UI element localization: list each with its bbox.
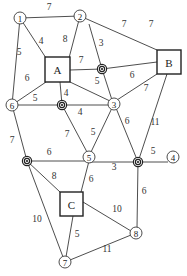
edge-weight-label: 5 [17, 47, 22, 57]
edge-weight-label: 8 [63, 34, 68, 44]
edge-J4-7 [27, 161, 63, 257]
node-1: 1 [14, 12, 26, 24]
edge-weight-label: 6 [130, 70, 135, 80]
edge-weight-label: 7 [79, 55, 84, 65]
node-label: 1 [18, 14, 23, 24]
edge-C-8 [83, 202, 131, 231]
edge-weight-label: 5 [95, 76, 100, 86]
edge-weight-label: 7 [122, 19, 127, 29]
edge-weight-label: 4 [78, 107, 83, 117]
edge-3-B [117, 74, 157, 100]
edge-weight-label: 10 [32, 214, 42, 224]
node-label: 7 [63, 258, 68, 268]
box-label: C [68, 199, 75, 211]
edge-weight-label: 6 [47, 147, 52, 157]
node-label: 4 [171, 153, 176, 163]
box-node-A: A [45, 57, 70, 82]
edge-weight-label: 11 [150, 117, 159, 127]
junction-node-J1 [97, 64, 106, 73]
node-4: 4 [167, 151, 179, 163]
edge-weight-label: 7 [144, 83, 149, 93]
box-node-C: C [60, 192, 83, 216]
edge-C-7 [66, 216, 73, 257]
edge-weight-label: 11 [102, 244, 111, 254]
edge-weight-label: 5 [33, 93, 38, 103]
node-label: 2 [78, 12, 83, 22]
node-7: 7 [59, 256, 71, 268]
node-label: 8 [134, 229, 139, 239]
edge-weight-label: 5 [151, 146, 156, 156]
edge-weight-label: 7 [47, 2, 52, 12]
edge-2-A [69, 16, 80, 58]
edge-A-3 [70, 82, 110, 101]
edge-weight-label: 3 [99, 38, 104, 48]
box-label: A [54, 64, 62, 76]
node-label: 5 [87, 153, 92, 163]
node-3: 3 [108, 98, 120, 110]
edge-weight-label: 4 [39, 36, 44, 46]
node-label: 3 [112, 100, 117, 110]
edge-weight-label: 4 [64, 88, 69, 98]
node-8: 8 [130, 227, 142, 239]
edge-weight-label: 7 [65, 129, 70, 139]
edge-1-2 [20, 16, 80, 18]
edge-6-J4 [12, 105, 27, 161]
edge-weight-label: 6 [25, 73, 30, 83]
box-node-B: B [157, 50, 181, 74]
box-label: B [165, 57, 172, 69]
edge-J3-8 [137, 162, 138, 228]
junction-node-J4 [22, 156, 31, 165]
network-diagram: 7458377657454756115763866101051167 12345… [0, 0, 187, 276]
edge-weight-label: 6 [142, 186, 147, 196]
edge-weight-label: 5 [91, 127, 96, 137]
edge-weight-label: 10 [112, 204, 122, 214]
edge-weight-label: 6 [125, 116, 130, 126]
edge-J1-B [102, 62, 157, 69]
edge-weight-label: 7 [149, 19, 154, 29]
node-5: 5 [83, 151, 95, 163]
node-label: 6 [10, 101, 15, 111]
edge-weight-label: 5 [75, 229, 80, 239]
edge-weight-label: 7 [10, 135, 15, 145]
junction-node-J2 [57, 100, 66, 109]
node-6: 6 [6, 99, 18, 111]
edge-1-6 [12, 18, 20, 105]
edge-weight-label: 3 [112, 162, 117, 172]
edge-weight-label: 8 [52, 171, 57, 181]
junction-node-J3 [133, 157, 142, 166]
edge-weight-label: 6 [89, 174, 94, 184]
node-2: 2 [74, 10, 86, 22]
